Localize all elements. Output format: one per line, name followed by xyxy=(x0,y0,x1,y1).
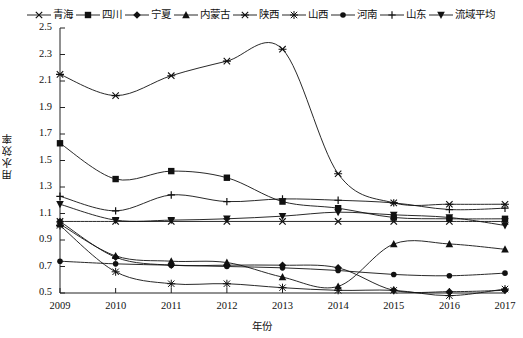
x-tick-label: 2014 xyxy=(318,300,358,311)
data-point-marker xyxy=(280,265,286,271)
data-point-marker xyxy=(390,240,398,247)
data-point-marker xyxy=(112,252,120,259)
data-point-marker xyxy=(502,270,508,276)
data-point-marker xyxy=(167,73,175,79)
data-point-marker xyxy=(279,284,287,292)
y-tick-label: 0.9 xyxy=(26,233,52,244)
data-point-marker xyxy=(57,258,63,264)
data-point-marker xyxy=(501,205,508,212)
data-point-marker xyxy=(167,280,175,288)
data-point-marker xyxy=(112,176,118,182)
x-tick-label: 2012 xyxy=(207,300,247,311)
y-tick-label: 2.1 xyxy=(26,74,52,85)
series-layer xyxy=(56,43,509,300)
y-tick-label: 2.5 xyxy=(26,21,52,32)
data-point-marker xyxy=(391,272,397,278)
y-tick-label: 2.3 xyxy=(26,48,52,59)
x-tick-label: 2015 xyxy=(374,300,414,311)
data-point-marker xyxy=(334,197,341,204)
x-tick-label: 2011 xyxy=(151,300,191,311)
data-point-marker xyxy=(502,216,508,222)
chart-figure: 青海四川宁夏内蒙古陕西山西河南山东流域平均 用水效率 年份 0.50.70.91… xyxy=(0,0,523,338)
data-point-marker xyxy=(112,268,120,276)
data-point-marker xyxy=(223,198,230,205)
data-point-marker xyxy=(335,268,341,274)
series-5 xyxy=(56,221,509,299)
y-tick-label: 1.7 xyxy=(26,127,52,138)
data-point-marker xyxy=(112,92,120,98)
x-tick-label: 2010 xyxy=(96,300,136,311)
x-tick-label: 2017 xyxy=(485,300,523,311)
x-tick-label: 2016 xyxy=(429,300,469,311)
data-point-marker xyxy=(168,191,175,198)
y-tick-label: 1.1 xyxy=(26,207,52,218)
data-point-marker xyxy=(445,292,453,300)
y-tick-label: 1.3 xyxy=(26,180,52,191)
y-tick-label: 1.9 xyxy=(26,101,52,112)
axes xyxy=(60,28,505,293)
data-point-marker xyxy=(113,261,119,267)
data-point-marker xyxy=(223,58,231,64)
series-8 xyxy=(56,201,509,229)
x-tick-label: 2009 xyxy=(40,300,80,311)
data-point-marker xyxy=(112,207,119,214)
series-4 xyxy=(56,43,509,208)
series-3 xyxy=(56,220,509,289)
data-point-marker xyxy=(334,171,342,177)
data-point-marker xyxy=(224,264,230,270)
data-point-marker xyxy=(501,285,509,293)
data-point-marker xyxy=(279,46,287,52)
data-point-marker xyxy=(501,222,509,229)
data-point-marker xyxy=(223,280,231,288)
data-point-marker xyxy=(56,221,64,229)
data-point-marker xyxy=(168,168,174,174)
series-line xyxy=(60,221,505,292)
chart-plot-area xyxy=(0,0,523,338)
data-point-marker xyxy=(168,262,174,268)
data-point-marker xyxy=(56,193,63,200)
series-line xyxy=(60,143,505,219)
x-tick-label: 2013 xyxy=(263,300,303,311)
y-tick-label: 0.5 xyxy=(26,286,52,297)
data-point-marker xyxy=(390,286,398,294)
data-point-marker xyxy=(334,286,342,294)
data-point-marker xyxy=(447,273,453,279)
y-tick-label: 1.5 xyxy=(26,154,52,165)
data-point-marker xyxy=(224,175,230,181)
series-line xyxy=(60,43,505,206)
data-point-marker xyxy=(57,140,63,146)
y-tick-label: 0.7 xyxy=(26,260,52,271)
